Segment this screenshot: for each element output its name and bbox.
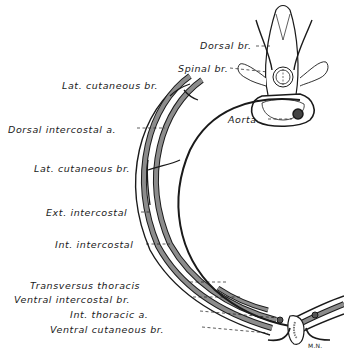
- label-dorsal-br: Dorsal br.: [200, 40, 252, 51]
- label-spinal-br: Spinal br.: [178, 63, 228, 74]
- label-lat-cutaneous-br-upper: Lat. cutaneous br.: [62, 80, 158, 91]
- artist-signature: M.N.: [308, 340, 322, 351]
- label-ventral-intercostal-br: Ventral intercostal br.: [14, 294, 130, 305]
- label-aorta: Aorta: [228, 114, 257, 125]
- label-lat-cutaneous-br-lower: Lat. cutaneous br.: [34, 163, 130, 174]
- vertebra: [238, 6, 328, 127]
- label-transversus-thoracis: Transversus thoracis: [30, 280, 140, 291]
- label-int-intercostal: Int. intercostal: [55, 239, 134, 250]
- label-ext-intercostal: Ext. intercostal: [46, 207, 127, 218]
- label-dorsal-intercostal-a: Dorsal intercostal a.: [8, 124, 116, 135]
- label-ventral-cutaneous-br: Ventral cutaneous br.: [50, 324, 164, 335]
- label-int-thoracic-a: Int. thoracic a.: [70, 309, 148, 320]
